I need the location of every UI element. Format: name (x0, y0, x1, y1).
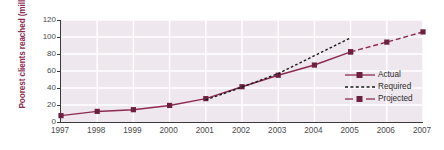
y-axis-tick-labels: 020406080100120 (0, 20, 60, 122)
series-actual (58, 49, 353, 118)
x-tick-2000: 2000 (159, 126, 177, 135)
legend-label-projected: Projected (378, 94, 413, 104)
y-tick-40: 40 (0, 83, 56, 92)
x-tick-2006: 2006 (377, 126, 395, 135)
x-tick-2002: 2002 (232, 126, 250, 135)
legend-key-solid-square-icon (345, 70, 375, 80)
legend-label-actual: Actual (378, 70, 401, 80)
legend-label-required: Required (378, 82, 411, 92)
x-tick-2001: 2001 (196, 126, 214, 135)
legend-item-actual[interactable]: Actual (345, 69, 441, 81)
chart-legend: Actual Required Projected (345, 69, 441, 105)
x-tick-2003: 2003 (268, 126, 286, 135)
x-tick-2007: 2007 (413, 126, 431, 135)
y-tick-100: 100 (0, 32, 56, 41)
y-tick-120: 120 (0, 15, 56, 24)
x-tick-1997: 1997 (51, 126, 69, 135)
y-tick-0: 0 (0, 117, 56, 126)
x-tick-2005: 2005 (340, 126, 358, 135)
x-tick-1999: 1999 (123, 126, 141, 135)
x-axis-tick-labels: 1997199819992000200120022003200420052006… (60, 124, 422, 142)
y-tick-80: 80 (0, 49, 56, 58)
legend-key-dashed-square-icon (345, 94, 375, 104)
legend-key-dotted-line-icon (345, 82, 375, 92)
y-tick-20: 20 (0, 100, 56, 109)
legend-item-required[interactable]: Required (345, 81, 441, 93)
legend-item-projected[interactable]: Projected (345, 93, 441, 105)
chart-container: Poorest clients reached (millions) 02040… (0, 0, 444, 150)
x-tick-2004: 2004 (304, 126, 322, 135)
y-tick-60: 60 (0, 66, 56, 75)
series-required (206, 38, 351, 100)
x-tick-1998: 1998 (87, 126, 105, 135)
series-projected (348, 29, 426, 54)
